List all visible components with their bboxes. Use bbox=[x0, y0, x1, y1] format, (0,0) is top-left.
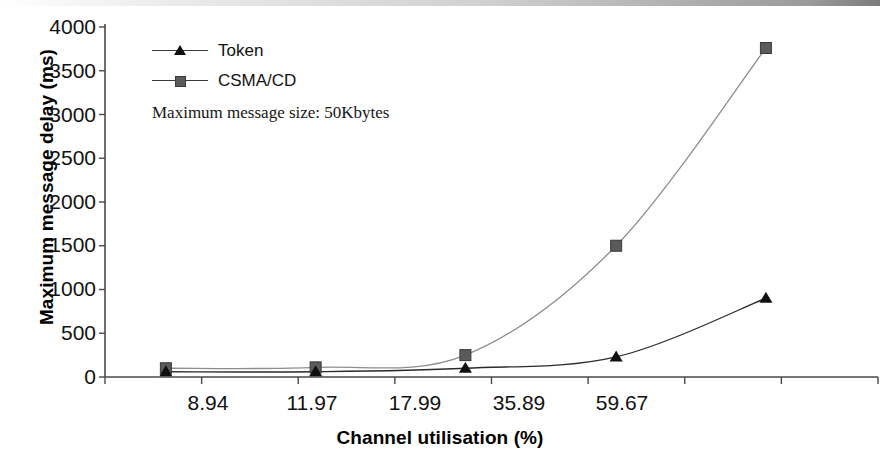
plot-area bbox=[0, 0, 880, 453]
series-markers-token bbox=[159, 292, 772, 377]
series-line-csma-cd bbox=[166, 48, 766, 369]
y-tick-marks bbox=[99, 27, 105, 377]
chart-figure: Maximum message delay (ms) 4000 3500 300… bbox=[0, 0, 880, 453]
x-tick-marks bbox=[105, 377, 878, 384]
axis-lines bbox=[105, 24, 878, 377]
series-markers-csma-cd bbox=[160, 43, 771, 374]
